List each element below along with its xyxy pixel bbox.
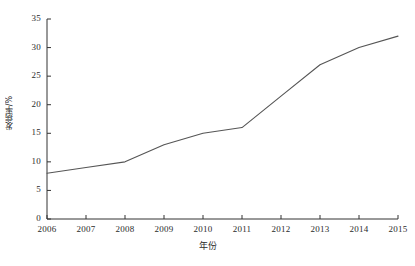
x-axis-tick-label: 2007 bbox=[69, 225, 103, 234]
line-chart-figure: 05101520253035 2006200720082009201020112… bbox=[0, 0, 415, 266]
y-axis-ticks bbox=[47, 19, 51, 219]
x-axis-tick-label: 2009 bbox=[147, 225, 181, 234]
x-axis-title: 年份 bbox=[0, 239, 415, 252]
x-axis-tick-label: 2013 bbox=[303, 225, 337, 234]
x-axis-tick-label: 2015 bbox=[381, 225, 415, 234]
x-axis-ticks bbox=[47, 215, 398, 219]
y-axis-title: 发病率/% bbox=[6, 96, 20, 130]
y-axis-tick-label: 25 bbox=[13, 71, 41, 80]
y-axis-tick-label: 5 bbox=[13, 185, 41, 194]
x-axis-tick-label: 2012 bbox=[264, 225, 298, 234]
data-series-line bbox=[47, 36, 398, 173]
y-axis-tick-label: 0 bbox=[13, 214, 41, 223]
y-axis-tick-label: 35 bbox=[13, 14, 41, 23]
x-axis-tick-label: 2006 bbox=[30, 225, 64, 234]
y-axis-tick-label: 10 bbox=[13, 157, 41, 166]
x-axis-tick-label: 2008 bbox=[108, 225, 142, 234]
x-axis-tick-label: 2011 bbox=[225, 225, 259, 234]
x-axis-tick-label: 2010 bbox=[186, 225, 220, 234]
axis-spines bbox=[47, 19, 398, 219]
y-axis-tick-label: 30 bbox=[13, 43, 41, 52]
x-axis-tick-label: 2014 bbox=[342, 225, 376, 234]
